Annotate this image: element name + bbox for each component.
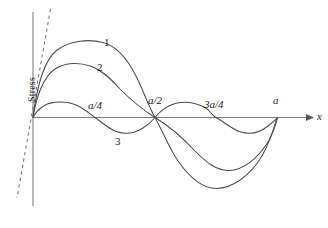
curve-1-path xyxy=(33,41,277,189)
x-tick-label-a-half: a/2 xyxy=(148,95,162,106)
x-tick-label-a-quarter: a/4 xyxy=(88,100,102,111)
curve-1-label: 1 xyxy=(104,37,110,48)
stress-displacement-figure: Stress a/4 a/2 3a/4 a x 1 2 3 xyxy=(0,0,328,228)
curve-3-label: 3 xyxy=(115,136,121,147)
x-tick-label-three-a-quarter: 3a/4 xyxy=(204,99,224,110)
plot-canvas xyxy=(0,0,328,228)
x-tick-label-a: a xyxy=(273,95,279,106)
curve-2-label: 2 xyxy=(97,62,103,73)
x-axis-label: x xyxy=(317,111,322,122)
y-axis-label: Stress xyxy=(26,63,37,117)
